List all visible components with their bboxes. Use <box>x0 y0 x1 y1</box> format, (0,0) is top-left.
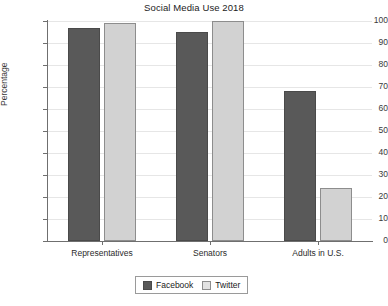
x-tick-label: Senators <box>150 248 270 258</box>
legend-label-facebook: Facebook <box>156 280 193 290</box>
legend-item-facebook: Facebook <box>143 280 193 290</box>
bar-twitter-1 <box>212 21 244 241</box>
bar-facebook-1 <box>176 32 208 241</box>
legend-swatch-facebook-icon <box>143 281 152 290</box>
bar-twitter-0 <box>104 23 136 241</box>
legend-label-twitter: Twitter <box>215 280 240 290</box>
x-tick-label: Representatives <box>42 248 162 258</box>
bar-chart: Social Media Use 2018 Percentage 1009080… <box>0 0 388 306</box>
bar-facebook-2 <box>284 91 316 241</box>
x-tick-label: Adults in U.S. <box>258 248 378 258</box>
legend-swatch-twitter-icon <box>202 281 211 290</box>
bar-twitter-2 <box>320 188 352 241</box>
chart-title: Social Media Use 2018 <box>0 2 388 13</box>
x-tick-mark <box>102 241 103 245</box>
bar-facebook-0 <box>68 28 100 241</box>
chart-legend: Facebook Twitter <box>135 276 248 294</box>
x-tick-mark <box>318 241 319 245</box>
y-axis-label: Percentage <box>0 63 9 106</box>
plot-area <box>48 21 372 241</box>
legend-item-twitter: Twitter <box>202 280 240 290</box>
x-tick-mark <box>210 241 211 245</box>
